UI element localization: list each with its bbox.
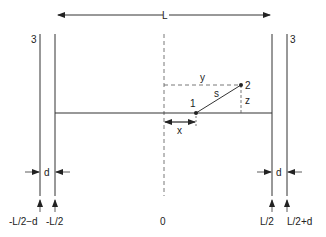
z-label: z [245, 95, 250, 106]
length-label: L [162, 10, 168, 21]
left-wall-label: 3 [31, 34, 37, 45]
length-dimension: L [58, 10, 270, 21]
point-2-label: 2 [245, 80, 251, 91]
left-outer-position-label: -L/2−d [9, 216, 38, 227]
point-1 [194, 111, 198, 115]
left-inner-position-label: -L/2 [46, 216, 64, 227]
left-thickness-dimension: d [25, 167, 70, 178]
x-label: x [177, 125, 182, 136]
right-outer-position-label: L/2+d [287, 216, 312, 227]
left-thickness-label: d [44, 167, 50, 178]
right-inner-position-label: L/2 [260, 216, 274, 227]
point-1-label: 1 [190, 98, 196, 109]
y-label: y [200, 72, 205, 83]
diagram-canvas: L 3 3 y z s 1 2 x d d [0, 0, 326, 237]
x-dimension: x [165, 116, 196, 136]
right-wall-label: 3 [290, 34, 296, 45]
separation-label: s [214, 88, 219, 99]
point-2 [239, 83, 243, 87]
center-position-label: 0 [160, 216, 166, 227]
right-thickness-label: d [276, 167, 282, 178]
right-thickness-dimension: d [257, 167, 302, 178]
